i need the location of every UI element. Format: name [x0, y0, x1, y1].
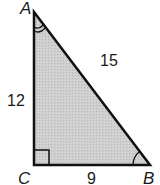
triangle-diagram: A C B 12 15 9	[0, 0, 160, 185]
side-label-ab: 15	[100, 52, 118, 69]
triangle-abc	[34, 12, 150, 165]
vertex-label-b: B	[143, 169, 154, 185]
vertex-label-a: A	[19, 0, 31, 18]
side-label-ac: 12	[7, 92, 25, 109]
side-label-cb: 9	[87, 170, 96, 185]
vertex-label-c: C	[18, 169, 31, 185]
